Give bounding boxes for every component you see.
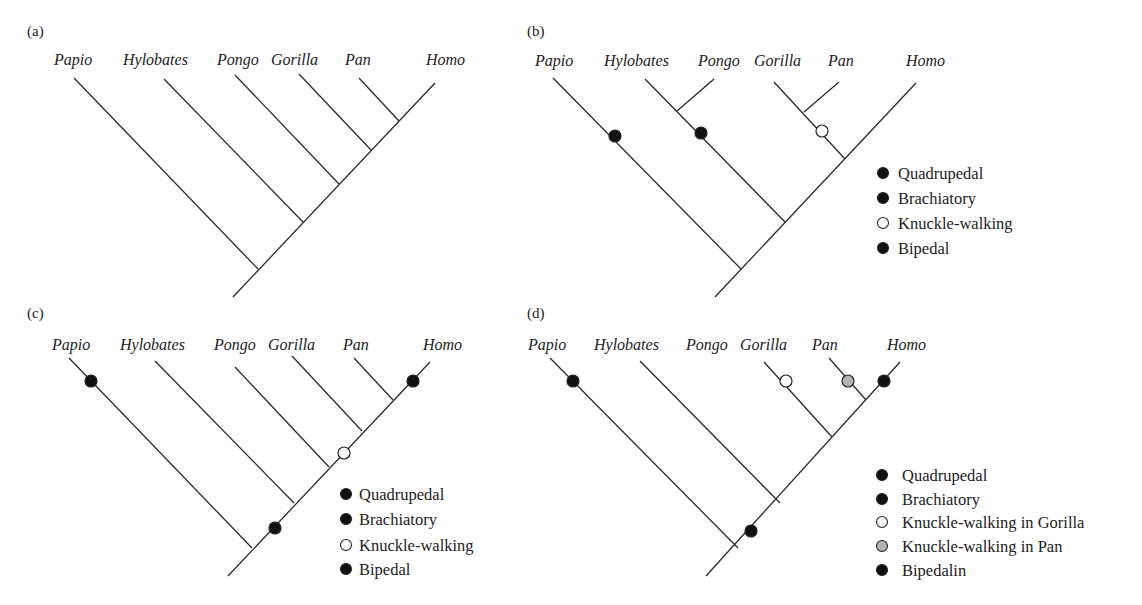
legend-item-label: Knuckle-walking in Gorilla	[902, 513, 1085, 532]
trait-marker-black-icon	[269, 522, 281, 534]
panel-label: (c)	[27, 305, 44, 322]
legend-item-label: Bipedalin	[902, 561, 966, 580]
legend-black-dot-icon	[878, 193, 889, 204]
legend-black-dot-icon	[341, 564, 352, 575]
legend-item-label: Quadrupedal	[359, 485, 445, 504]
taxon-label-pan: Pan	[811, 336, 838, 353]
legend-black-dot-icon	[878, 168, 889, 179]
legend-white-dot-icon	[878, 218, 889, 229]
taxon-label-pongo: Pongo	[697, 52, 740, 70]
legend: QuadrupedalBrachiatoryKnuckle-walkingBip…	[878, 164, 1013, 258]
trait-marker-white-icon	[780, 375, 792, 387]
taxon-label-homo: Homo	[425, 51, 465, 68]
panel-c: (c)PapioHylobatesPongoGorillaPanHomoQuad…	[27, 305, 474, 579]
tree-branch	[645, 79, 785, 222]
taxon-label-pongo: Pongo	[213, 336, 256, 354]
legend-item-label: Quadrupedal	[902, 466, 988, 485]
trait-marker-black-icon	[745, 525, 757, 537]
figure-canvas: (a)PapioHylobatesPongoGorillaPanHomo(b)P…	[0, 0, 1142, 605]
legend-black-dot-icon	[341, 514, 352, 525]
legend-item-label: Brachiatory	[898, 189, 977, 208]
tree-branch	[69, 358, 252, 548]
legend-black-dot-icon	[341, 489, 352, 500]
trait-marker-black-icon	[609, 130, 621, 142]
tree-branch	[354, 358, 393, 400]
legend: QuadrupedalBrachiatoryKnuckle-walking in…	[877, 466, 1086, 580]
tree-branch	[292, 356, 362, 431]
tree-branch	[715, 83, 916, 297]
phylogeny-figure: (a)PapioHylobatesPongoGorillaPanHomo(b)P…	[0, 0, 1142, 605]
legend-white-dot-icon	[341, 540, 352, 551]
tree-branch	[74, 78, 258, 269]
tree-branch	[164, 79, 303, 222]
taxon-label-papio: Papio	[534, 52, 573, 70]
legend-black-dot-icon	[877, 470, 888, 481]
legend-item-label: Knuckle-walking	[359, 536, 474, 555]
trait-marker-gray-icon	[842, 375, 854, 387]
tree-branch	[774, 82, 845, 159]
tree-branch	[804, 82, 839, 112]
trait-marker-black-icon	[878, 375, 890, 387]
taxon-label-hylobates: Hylobates	[122, 51, 188, 69]
panel-label: (a)	[27, 23, 44, 40]
tree-branch	[359, 78, 399, 121]
panel-label: (b)	[527, 23, 545, 40]
taxon-label-homo: Homo	[886, 336, 926, 353]
legend-item-label: Brachiatory	[359, 510, 438, 529]
tree-branch	[233, 83, 435, 297]
taxon-label-gorilla: Gorilla	[268, 336, 315, 353]
panel-b: (b)PapioHylobatesPongoGorillaPanHomoQuad…	[527, 23, 1013, 297]
tree-branch	[235, 367, 329, 467]
panel-label: (d)	[527, 305, 545, 322]
taxon-label-gorilla: Gorilla	[754, 52, 801, 69]
taxon-label-pan: Pan	[342, 336, 369, 353]
tree-branch	[155, 361, 294, 503]
tree-branch	[553, 78, 741, 269]
taxon-label-hylobates: Hylobates	[119, 336, 185, 354]
legend-item-label: Knuckle-walking	[898, 214, 1013, 233]
taxon-label-homo: Homo	[905, 52, 945, 69]
trait-marker-white-icon	[338, 447, 350, 459]
taxon-label-gorilla: Gorilla	[271, 51, 318, 68]
tree-branch	[677, 79, 714, 111]
taxon-label-hylobates: Hylobates	[603, 52, 669, 70]
tree-branch	[640, 361, 780, 503]
taxon-label-pongo: Pongo	[216, 51, 259, 69]
legend-gray-dot-icon	[877, 541, 888, 552]
legend-black-dot-icon	[877, 494, 888, 505]
taxon-label-homo: Homo	[422, 336, 462, 353]
taxon-label-papio: Papio	[527, 336, 566, 354]
taxon-label-pan: Pan	[827, 52, 854, 69]
legend-item-label: Bipedal	[359, 560, 411, 579]
tree-branch	[299, 74, 371, 150]
taxon-label-gorilla: Gorilla	[740, 336, 787, 353]
legend-black-dot-icon	[878, 243, 889, 254]
trait-marker-white-icon	[816, 125, 828, 137]
trait-marker-black-icon	[407, 375, 419, 387]
legend-item-label: Bipedal	[898, 239, 950, 258]
trait-marker-black-icon	[567, 375, 579, 387]
legend-item-label: Quadrupedal	[898, 164, 984, 183]
legend-item-label: Knuckle-walking in Pan	[902, 537, 1062, 556]
legend-white-dot-icon	[877, 517, 888, 528]
taxon-label-pan: Pan	[344, 51, 371, 68]
legend: QuadrupedalBrachiatoryKnuckle-walkingBip…	[341, 485, 474, 579]
tree-branch	[764, 362, 832, 437]
tree-branch	[706, 362, 900, 576]
legend-black-dot-icon	[877, 565, 888, 576]
taxon-label-papio: Papio	[51, 336, 90, 354]
trait-marker-black-icon	[85, 375, 97, 387]
taxon-label-pongo: Pongo	[685, 336, 728, 354]
trait-marker-black-icon	[695, 127, 707, 139]
legend-item-label: Brachiatory	[902, 490, 981, 509]
panel-d: (d)PapioHylobatesPongoGorillaPanHomoQuad…	[527, 305, 1085, 580]
tree-branch	[550, 358, 738, 548]
taxon-label-hylobates: Hylobates	[593, 336, 659, 354]
taxon-label-papio: Papio	[53, 51, 92, 69]
panel-a: (a)PapioHylobatesPongoGorillaPanHomo	[27, 23, 465, 297]
